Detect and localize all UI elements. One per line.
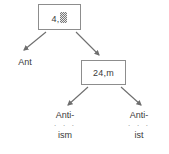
tree-leaf-ist-label-bottom: ist	[135, 130, 144, 140]
tree-node-inner[interactable]: 24,m	[81, 60, 126, 85]
tree-leaf-ism-label-top: Anti-	[56, 110, 75, 120]
tree-leaf-ist-ellipsis: · · ·	[118, 121, 160, 130]
tree-node-inner-label: 24,m	[93, 68, 114, 78]
tree-leaf-ism-ellipsis: · · ·	[44, 121, 86, 130]
tree-leaf-ant[interactable]: Ant	[5, 57, 45, 68]
tree-leaf-ism-label-bottom: ism	[58, 130, 72, 140]
tree-leaf-ant-label: Ant	[18, 57, 32, 67]
edge-inner-to-ist	[121, 87, 141, 105]
edge-inner-to-ism	[68, 87, 88, 105]
tree-node-root-label-text: 4,	[52, 14, 60, 24]
redacted-block-glyph-icon	[60, 12, 67, 23]
edge-root-to-ant	[24, 32, 46, 50]
edge-root-to-inner	[76, 32, 99, 55]
tree-diagram-canvas: 4, 24,m Ant Anti- · · · ism Anti- · · · …	[0, 0, 169, 154]
tree-leaf-ist-label-top: Anti-	[130, 110, 149, 120]
tree-node-root[interactable]: 4,	[38, 4, 81, 30]
tree-leaf-ist[interactable]: Anti- · · · ist	[118, 110, 160, 141]
tree-leaf-ism[interactable]: Anti- · · · ism	[44, 110, 86, 141]
tree-node-root-label: 4,	[52, 11, 68, 24]
